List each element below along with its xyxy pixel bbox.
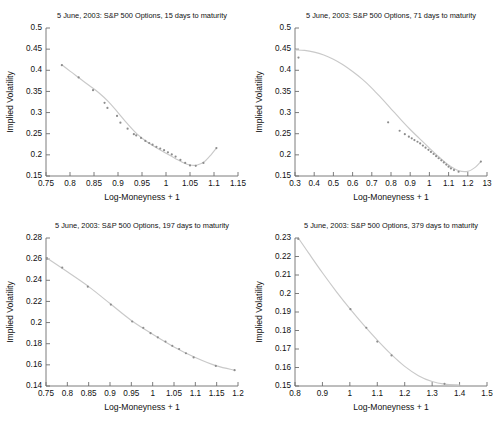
y-tick-label: 0.15	[275, 381, 291, 390]
data-point	[189, 164, 191, 166]
data-point	[149, 332, 151, 334]
data-point	[103, 102, 105, 104]
y-tick-label: 0.14	[26, 381, 42, 390]
data-point	[133, 133, 135, 135]
data-point	[175, 155, 177, 157]
data-point	[135, 134, 137, 136]
data-point	[297, 238, 299, 240]
x-tick-label: 0.7	[366, 179, 378, 188]
y-tick-label: 0.35	[26, 87, 42, 96]
data-point	[453, 169, 455, 171]
y-axis-label: Implied Volatility	[5, 280, 15, 342]
fitted-curve	[62, 65, 217, 166]
y-tick-label: 0.2	[31, 318, 43, 327]
data-point	[387, 121, 389, 123]
chart-panel-71-days: 5 June, 2003: S&P 500 Options, 71 days t…	[249, 0, 498, 218]
x-tick-label: 0.8	[385, 179, 397, 188]
data-point	[435, 155, 437, 157]
data-point	[480, 161, 482, 163]
y-tick-label: 0.17	[275, 344, 291, 353]
implied-volatility-figure: 5 June, 2003: S&P 500 Options, 15 days t…	[0, 0, 498, 436]
chart-axes	[295, 238, 487, 386]
y-tick-label: 0.5	[280, 23, 292, 32]
data-point	[457, 171, 459, 173]
x-tick-label: 1.05	[182, 179, 198, 188]
x-tick-label: 0.95	[134, 179, 150, 188]
data-point	[185, 352, 187, 354]
chart-title: 5 June, 2003: S&P 500 Options, 197 days …	[55, 221, 229, 230]
data-point	[167, 151, 169, 153]
chart-svg-379-days: 5 June, 2003: S&P 500 Options, 379 days …	[249, 210, 498, 436]
y-tick-label: 0.4	[280, 65, 292, 74]
data-point	[110, 304, 112, 306]
x-tick-label: 1.2	[399, 389, 411, 398]
data-point	[349, 308, 351, 310]
data-point	[119, 122, 121, 124]
data-point	[445, 163, 447, 165]
data-point	[87, 286, 89, 288]
data-point	[171, 345, 173, 347]
data-point	[365, 327, 367, 329]
data-points	[297, 238, 445, 385]
data-point	[419, 142, 421, 144]
data-point	[78, 76, 80, 78]
data-point	[233, 369, 235, 371]
y-tick-label: 0.15	[26, 171, 42, 180]
x-tick-label: 1.1	[372, 389, 384, 398]
data-point	[413, 139, 415, 141]
y-tick-label: 0.19	[275, 307, 291, 316]
data-point	[148, 142, 150, 144]
data-point	[408, 136, 410, 138]
x-tick-label: 1.1	[443, 179, 455, 188]
x-tick-label: 1	[348, 389, 353, 398]
x-tick-label: 1	[427, 179, 432, 188]
data-point	[184, 162, 186, 164]
data-point	[92, 89, 94, 91]
y-tick-label: 0.18	[26, 339, 42, 348]
y-tick-label: 0.3	[280, 108, 292, 117]
data-point	[404, 133, 406, 135]
x-tick-label: 1.2	[462, 179, 474, 188]
x-tick-label: 1.1	[208, 179, 220, 188]
chart-title: 5 June, 2003: S&P 500 Options, 379 days …	[304, 221, 478, 230]
data-point	[142, 327, 144, 329]
chart-panel-15-days: 5 June, 2003: S&P 500 Options, 15 days t…	[0, 0, 249, 218]
x-tick-label: 1.4	[454, 389, 466, 398]
y-tick-label: 0.25	[275, 129, 291, 138]
data-points	[46, 257, 236, 371]
data-point	[61, 64, 63, 66]
y-tick-label: 0.15	[275, 171, 291, 180]
data-point	[116, 115, 118, 117]
y-axis-label: Implied Volatility	[254, 280, 264, 342]
y-tick-label: 0.21	[275, 270, 291, 279]
data-point	[61, 267, 63, 269]
x-tick-label: 1.3	[426, 389, 438, 398]
data-point	[195, 165, 197, 167]
y-tick-label: 0.3	[31, 108, 43, 117]
y-tick-label: 0.2	[31, 150, 43, 159]
data-point	[427, 149, 429, 151]
x-tick-label: 0.6	[347, 179, 359, 188]
x-tick-label: 1.5	[481, 389, 493, 398]
data-point	[422, 144, 424, 146]
data-point	[157, 336, 159, 338]
y-tick-label: 0.16	[26, 360, 42, 369]
fitted-curve	[298, 238, 459, 385]
y-tick-label: 0.16	[275, 363, 291, 372]
data-point	[151, 144, 153, 146]
x-tick-label: 0.8	[289, 389, 301, 398]
x-tick-label: 0.5	[328, 179, 340, 188]
y-tick-label: 0.24	[26, 275, 42, 284]
fitted-curve	[295, 50, 481, 172]
data-point	[424, 147, 426, 149]
chart-svg-71-days: 5 June, 2003: S&P 500 Options, 71 days t…	[249, 0, 498, 226]
data-point	[430, 151, 432, 153]
data-points	[297, 57, 482, 173]
x-tick-label: 0.3	[289, 179, 301, 188]
y-tick-label: 0.22	[26, 297, 42, 306]
x-tick-label: 0.4	[309, 179, 321, 188]
data-point	[163, 149, 165, 151]
y-tick-label: 0.2	[280, 150, 292, 159]
x-tick-label: 0.8	[62, 389, 74, 398]
chart-axes	[46, 28, 238, 176]
